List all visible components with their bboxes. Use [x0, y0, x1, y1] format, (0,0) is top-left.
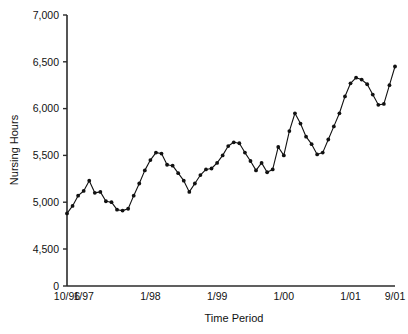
data-point [199, 173, 203, 177]
data-point [132, 194, 136, 198]
y-axis-ticks: 7,0006,5006,0005,5005,0004,5000 [33, 9, 67, 292]
data-point [126, 207, 130, 211]
data-point [143, 168, 147, 172]
y-tick-label: 5,000 [33, 196, 59, 208]
data-point [215, 161, 219, 165]
data-point [393, 65, 397, 69]
data-point [260, 161, 264, 165]
data-point [187, 190, 191, 194]
data-point [171, 164, 175, 168]
data-point [154, 151, 158, 155]
x-axis-title: Time Period [205, 312, 264, 324]
data-point [115, 208, 119, 212]
nursing-hours-line-chart: 7,0006,5006,0005,5005,0004,5000 10/961/9… [0, 0, 408, 334]
data-point [176, 171, 180, 175]
data-point [87, 179, 91, 183]
data-point [371, 93, 375, 97]
data-point [221, 154, 225, 158]
data-point [210, 167, 214, 171]
data-point [110, 200, 114, 204]
data-point [137, 182, 141, 186]
data-point [276, 145, 280, 149]
y-tick-label: 4,500 [33, 243, 59, 255]
y-tick-label: 7,000 [33, 9, 59, 21]
data-point [254, 168, 258, 172]
data-point [148, 158, 152, 162]
data-point [388, 83, 392, 87]
data-point [226, 144, 230, 148]
data-point [299, 122, 303, 126]
data-point [354, 76, 358, 80]
data-point [310, 142, 314, 146]
x-tick-label: 1/99 [207, 290, 228, 302]
data-point [382, 102, 386, 106]
nursing-hours-series-line [67, 66, 395, 213]
data-point [165, 163, 169, 167]
x-tick-label: 1/97 [73, 290, 94, 302]
data-point [332, 124, 336, 128]
data-point [376, 103, 380, 107]
x-tick-label: 1/00 [274, 290, 295, 302]
data-point [265, 170, 269, 174]
x-tick-label: 1/01 [340, 290, 361, 302]
data-point [282, 154, 286, 158]
data-point [249, 159, 253, 163]
data-point [304, 135, 308, 139]
data-point [360, 78, 364, 82]
data-point [321, 151, 325, 155]
data-point [104, 199, 108, 203]
nursing-hours-series-markers [65, 65, 397, 216]
data-point [98, 190, 102, 194]
x-tick-label: 9/01 [385, 290, 406, 302]
data-point [182, 179, 186, 183]
data-point [271, 168, 275, 172]
data-point [365, 82, 369, 86]
data-point [343, 95, 347, 99]
data-point [93, 191, 97, 195]
y-tick-label: 5,500 [33, 149, 59, 161]
data-point [287, 129, 291, 133]
data-point [204, 168, 208, 172]
data-point [326, 138, 330, 142]
data-point [160, 152, 164, 156]
data-point [76, 194, 80, 198]
y-tick-label: 6,500 [33, 56, 59, 68]
x-axis-ticks: 10/961/971/981/991/001/019/01 [54, 290, 406, 302]
data-point [193, 182, 197, 186]
data-point [65, 212, 69, 216]
data-point [243, 151, 247, 155]
data-point [315, 153, 319, 157]
y-tick-label: 6,000 [33, 102, 59, 114]
data-point [349, 81, 353, 85]
data-point [293, 111, 297, 115]
data-point [82, 189, 86, 193]
data-point [237, 141, 241, 145]
data-point [71, 204, 75, 208]
chart-plot-area: 7,0006,5006,0005,5005,0004,5000 10/961/9… [0, 0, 408, 334]
data-point [232, 140, 236, 144]
y-axis-title: Nursing Hours [8, 114, 20, 185]
data-point [338, 111, 342, 115]
data-point [121, 209, 125, 213]
x-tick-label: 1/98 [140, 290, 161, 302]
